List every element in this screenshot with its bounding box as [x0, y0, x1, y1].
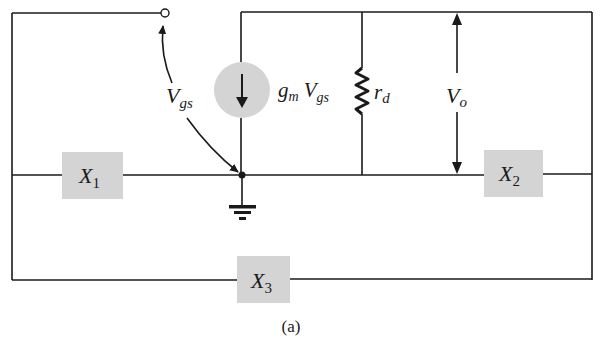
drain-wires: [241, 12, 592, 280]
arrow-up-icon: [452, 13, 462, 25]
gate-terminal-icon: [161, 9, 169, 17]
resistor-label: rd: [374, 80, 390, 106]
figure-caption: (a): [282, 317, 301, 336]
output-voltage-label: Vo: [446, 83, 467, 110]
arrow-down-icon: [452, 162, 462, 174]
block-x3: X3: [237, 256, 290, 303]
resistor-rd: [356, 12, 368, 175]
bottom-wire: [12, 279, 592, 280]
block-x2: X2: [484, 150, 543, 197]
vgs-label: Vgs: [166, 83, 193, 111]
block-x1: X1: [62, 152, 123, 199]
ground-icon: [229, 175, 256, 220]
dependent-current-source: [214, 62, 270, 118]
gate-wire: [12, 13, 161, 280]
circuit-diagram: gmVgs rd Vo Vgs X1: [0, 0, 602, 347]
current-source-label: gmVgs: [278, 78, 329, 105]
